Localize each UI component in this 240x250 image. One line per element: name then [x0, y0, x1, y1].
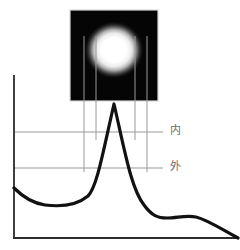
outer-threshold-label: 外: [170, 161, 181, 172]
threshold-lines: [14, 132, 163, 168]
profile-plot: [0, 0, 240, 250]
figure-container: 内 外: [0, 0, 240, 250]
intensity-profile-curve: [14, 104, 238, 238]
psf-star-image: [70, 10, 158, 101]
inner-threshold-label: 内: [170, 125, 181, 136]
